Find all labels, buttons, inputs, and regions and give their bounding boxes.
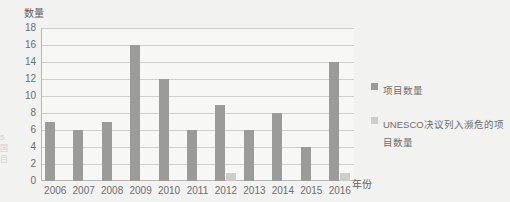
- bar-2008-series1[interactable]: [102, 122, 112, 182]
- bar-2016-series2[interactable]: [340, 173, 350, 182]
- bar-group-2011: 2011: [183, 28, 211, 181]
- x-tick-label-2008: 2008: [101, 186, 123, 196]
- y-tick-label-0: 0: [30, 176, 36, 186]
- x-tick-label-2013: 2013: [243, 186, 265, 196]
- bar-2011-series1[interactable]: [187, 130, 197, 181]
- bar-2013-series1[interactable]: [244, 130, 254, 181]
- x-tick-label-2010: 2010: [158, 186, 180, 196]
- x-tick-label-2007: 2007: [73, 186, 95, 196]
- bar-2010-series1[interactable]: [159, 79, 169, 181]
- bar-chart-figure: 5 国 目 数量 年份 181614121086420 200620072008…: [0, 0, 510, 202]
- bar-series-container: 2006200720082009201020112012201320142015…: [41, 28, 354, 181]
- y-tick-label-10: 10: [25, 91, 36, 101]
- bar-2007-series1[interactable]: [73, 130, 83, 181]
- x-axis-title: 年份: [352, 176, 372, 191]
- bar-2014-series1[interactable]: [272, 113, 282, 181]
- bar-group-2015: 2015: [297, 28, 325, 181]
- y-tick-label-4: 4: [30, 142, 36, 152]
- legend-swatch-series2: [371, 117, 378, 124]
- bar-group-2010: 2010: [155, 28, 183, 181]
- x-tick-label-2014: 2014: [272, 186, 294, 196]
- bar-2012-series2[interactable]: [226, 173, 236, 182]
- y-tick-label-14: 14: [25, 57, 36, 67]
- bar-group-2016: 2016: [326, 28, 354, 181]
- bar-group-2006: 2006: [41, 28, 69, 181]
- left-edge-bleed-text: 5 国 目: [0, 132, 12, 165]
- bar-2015-series1[interactable]: [301, 147, 311, 181]
- bar-group-2008: 2008: [98, 28, 126, 181]
- legend-item-1[interactable]: 项目数量: [371, 80, 507, 98]
- y-axis-title: 数量: [24, 5, 44, 20]
- bar-group-2009: 2009: [126, 28, 154, 181]
- x-tick-label-2011: 2011: [187, 186, 209, 196]
- y-tick-label-2: 2: [30, 159, 36, 169]
- bar-group-2014: 2014: [269, 28, 297, 181]
- x-tick-label-2006: 2006: [44, 186, 66, 196]
- y-tick-label-18: 18: [25, 23, 36, 33]
- bar-group-2012: 2012: [212, 28, 240, 181]
- x-tick-label-2012: 2012: [215, 186, 237, 196]
- x-tick-label-2009: 2009: [129, 186, 151, 196]
- bar-2016-series1[interactable]: [329, 62, 339, 181]
- chart-legend: 项目数量UNESCO决议列入濒危的项目数量: [371, 80, 507, 166]
- bar-group-2013: 2013: [240, 28, 268, 181]
- bar-2012-series1[interactable]: [215, 105, 225, 182]
- x-tick-label-2016: 2016: [329, 186, 351, 196]
- y-tick-label-8: 8: [30, 108, 36, 118]
- y-tick-label-12: 12: [25, 74, 36, 84]
- y-tick-label-6: 6: [30, 125, 36, 135]
- legend-swatch-series1: [371, 83, 378, 90]
- legend-label-2: UNESCO决议列入濒危的项目数量: [383, 119, 504, 148]
- bar-2006-series1[interactable]: [45, 122, 55, 182]
- legend-item-2[interactable]: UNESCO决议列入濒危的项目数量: [371, 114, 507, 150]
- bar-2009-series1[interactable]: [130, 45, 140, 181]
- bar-group-2007: 2007: [69, 28, 97, 181]
- plot-area: 181614121086420 200620072008200920102011…: [41, 28, 354, 181]
- x-tick-label-2015: 2015: [300, 186, 322, 196]
- y-tick-label-16: 16: [25, 40, 36, 50]
- legend-label-1: 项目数量: [383, 85, 423, 96]
